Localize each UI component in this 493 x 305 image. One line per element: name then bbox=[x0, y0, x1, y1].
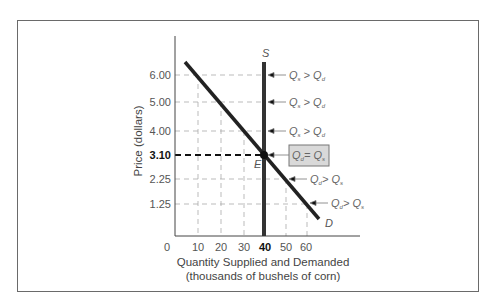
svg-text:60: 60 bbox=[300, 241, 312, 253]
svg-text:40: 40 bbox=[259, 241, 271, 253]
x-axis-sublabel: (thousands of bushels of corn) bbox=[186, 270, 341, 282]
svg-text:6.00: 6.00 bbox=[150, 69, 171, 81]
y-tick-labels: 6.00 5.00 4.00 3.10 2.25 1.25 bbox=[150, 69, 171, 210]
svg-text:20: 20 bbox=[215, 241, 227, 253]
x-axis-label: Quantity Supplied and Demanded bbox=[177, 256, 350, 268]
svg-text:Qs > Qd: Qs > Qd bbox=[289, 96, 326, 109]
svg-text:1.25: 1.25 bbox=[150, 198, 171, 210]
svg-text:Qd= Qs: Qd= Qs bbox=[292, 149, 325, 162]
svg-text:Qd> Qs: Qd> Qs bbox=[310, 173, 343, 186]
svg-text:3.10: 3.10 bbox=[150, 149, 171, 161]
svg-text:Qd> Qs: Qd> Qs bbox=[331, 197, 364, 210]
demand-label: D bbox=[325, 217, 333, 229]
demand-curve bbox=[185, 62, 319, 219]
svg-text:30: 30 bbox=[238, 241, 250, 253]
svg-text:2.25: 2.25 bbox=[150, 173, 171, 185]
svg-text:Qs > Qd: Qs > Qd bbox=[289, 125, 326, 138]
svg-text:5.00: 5.00 bbox=[150, 96, 171, 108]
supply-label: S bbox=[262, 47, 270, 59]
annotations: Qs > Qd Qs > Qd Qs > Qd Qd= Qs Qd> Qs Qd… bbox=[289, 69, 364, 210]
svg-text:Qs > Qd: Qs > Qd bbox=[289, 69, 326, 82]
equilibrium-label: E bbox=[254, 158, 262, 170]
svg-text:10: 10 bbox=[192, 241, 204, 253]
svg-text:0: 0 bbox=[164, 241, 170, 253]
x-tick-labels: 0 10 20 30 40 50 60 bbox=[164, 241, 312, 253]
svg-text:4.00: 4.00 bbox=[150, 125, 171, 137]
y-axis-label: Price (dollars) bbox=[132, 105, 144, 176]
svg-text:50: 50 bbox=[280, 241, 292, 253]
supply-demand-chart: S D E 6.00 5.00 4.00 3.10 2.25 1.25 0 10… bbox=[0, 0, 493, 305]
